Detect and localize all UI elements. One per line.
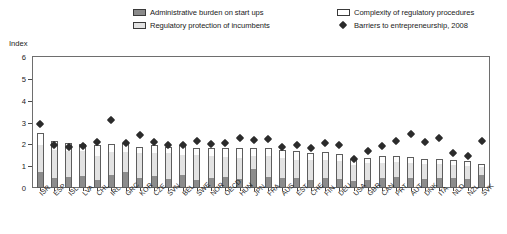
bar-segment-complex xyxy=(94,145,101,156)
barriers-marker xyxy=(193,137,201,145)
barriers-marker xyxy=(107,116,115,124)
bar-segment-protect xyxy=(179,155,186,175)
bar-segment-protect xyxy=(464,166,471,179)
bar-segment-protect xyxy=(293,160,300,179)
bar-stack xyxy=(122,143,129,188)
bar-segment-protect xyxy=(421,164,428,179)
bar-segment-complex xyxy=(136,147,143,154)
bar-stack xyxy=(478,164,485,188)
bar-segment-protect xyxy=(193,155,200,180)
bar-segment-protect xyxy=(336,161,343,180)
bar-stack xyxy=(279,150,286,188)
bar-segment-complex xyxy=(336,154,343,161)
bar-segment-protect xyxy=(94,156,101,180)
bar-stack xyxy=(94,145,101,188)
bar-segment-complex xyxy=(222,148,229,158)
bar-segment-complex xyxy=(37,133,44,145)
legend-swatch-diamond-icon xyxy=(337,22,350,29)
bar-stack xyxy=(464,161,471,188)
bar-segment-protect xyxy=(307,160,314,181)
barriers-marker xyxy=(235,133,243,141)
y-axis-tick-mark xyxy=(28,101,32,102)
barriers-marker xyxy=(307,144,315,152)
bar-segment-complex xyxy=(151,145,158,153)
bar-segment-complex xyxy=(293,151,300,160)
bar-segment-protect xyxy=(108,152,115,175)
bar-segment-protect xyxy=(136,153,143,178)
bar-segment-protect xyxy=(151,153,158,176)
bar-stack xyxy=(136,147,143,188)
bar-stack xyxy=(265,148,272,188)
barriers-marker xyxy=(364,146,372,154)
bar-stack xyxy=(165,147,172,188)
bar-segment-protect xyxy=(122,152,129,173)
bar-stack xyxy=(407,157,414,188)
y-axis-tick-label: 3 xyxy=(22,118,26,127)
bar-segment-protect xyxy=(436,164,443,178)
y-axis-tick-label: 5 xyxy=(22,74,26,83)
y-axis-tick-mark xyxy=(28,123,32,124)
bar-segment-protect xyxy=(37,145,44,171)
barriers-marker xyxy=(221,139,229,147)
legend-item-marker: Barriers to entrepreneurship, 2008 xyxy=(337,21,468,30)
bar-stack xyxy=(79,144,86,188)
chart-legend: Administrative burden on start ups Regul… xyxy=(0,4,507,34)
barriers-marker xyxy=(335,141,343,149)
bar-segment-protect xyxy=(478,167,485,175)
barriers-marker xyxy=(250,135,258,143)
bar-stack xyxy=(364,158,371,188)
bar-stack xyxy=(293,151,300,188)
bar-stack xyxy=(336,154,343,188)
bar-segment-complex xyxy=(450,160,457,165)
bar-segment-complex xyxy=(307,153,314,160)
bar-segment-protect xyxy=(364,163,371,180)
y-axis-title: Index xyxy=(9,39,28,48)
bar-segment-complex xyxy=(208,148,215,157)
legend-label-marker: Barriers to entrepreneurship, 2008 xyxy=(354,21,468,30)
barriers-marker xyxy=(292,141,300,149)
legend-label-protect: Regulatory protection of incumbents xyxy=(150,21,270,30)
bar-segment-protect xyxy=(350,165,357,181)
barriers-marker xyxy=(264,134,272,142)
bar-segment-protect xyxy=(250,156,257,169)
bar-segment-protect xyxy=(279,158,286,178)
bar-segment-protect xyxy=(393,162,400,177)
bar-stack xyxy=(193,148,200,188)
y-axis-tick-mark xyxy=(28,79,32,80)
barriers-marker xyxy=(435,133,443,141)
bar-series-container xyxy=(33,57,489,188)
bar-stack xyxy=(151,145,158,188)
bar-segment-protect xyxy=(222,157,229,177)
bar-segment-complex xyxy=(421,159,428,164)
bar-segment-complex xyxy=(407,157,414,163)
bar-segment-protect xyxy=(379,163,386,178)
y-axis-tick-label: 0 xyxy=(22,184,26,193)
bar-segment-protect xyxy=(265,156,272,177)
bar-stack xyxy=(307,153,314,188)
chart-root: Administrative burden on start ups Regul… xyxy=(0,0,507,234)
barriers-marker xyxy=(392,137,400,145)
y-axis-tick-label: 2 xyxy=(22,140,26,149)
legend-item-complex: Complexity of regulatory procedures xyxy=(337,8,474,17)
barriers-marker xyxy=(478,137,486,145)
barriers-marker xyxy=(449,149,457,157)
barriers-marker xyxy=(406,130,414,138)
barriers-marker xyxy=(378,142,386,150)
barriers-marker xyxy=(136,131,144,139)
legend-swatch-complex-icon xyxy=(337,9,350,16)
bar-segment-complex xyxy=(464,161,471,166)
bar-segment-protect xyxy=(208,156,215,178)
legend-label-complex: Complexity of regulatory procedures xyxy=(354,8,474,17)
bar-stack xyxy=(108,144,115,188)
bar-stack xyxy=(208,148,215,188)
bar-segment-complex xyxy=(393,156,400,161)
bar-segment-complex xyxy=(250,148,257,157)
bar-segment-complex xyxy=(108,144,115,152)
bar-segment-complex xyxy=(322,152,329,160)
y-axis-tick-mark xyxy=(28,166,32,167)
bar-segment-protect xyxy=(65,151,72,177)
bar-segment-complex xyxy=(478,164,485,167)
bar-stack xyxy=(393,156,400,188)
y-axis: 0123456 xyxy=(0,50,32,196)
bar-segment-complex xyxy=(364,158,371,163)
